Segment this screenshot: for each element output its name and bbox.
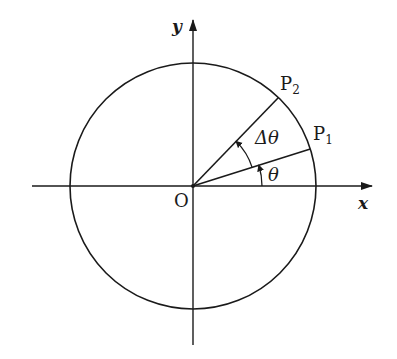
theta-arc-arrow-icon <box>259 165 262 186</box>
origin-label: O <box>174 190 189 211</box>
y-axis-label: y <box>171 16 183 36</box>
p2-label: P2 <box>280 73 300 97</box>
origin-point <box>191 184 195 188</box>
diagram-canvas: y x O P2 P1 Δθ θ <box>0 0 397 359</box>
delta-theta-label: Δθ <box>254 127 279 148</box>
p1-label: P1 <box>313 123 333 147</box>
theta-label: θ <box>268 164 279 185</box>
delta-theta-arc-arrow-icon <box>236 141 252 167</box>
x-axis-label: x <box>357 193 369 213</box>
